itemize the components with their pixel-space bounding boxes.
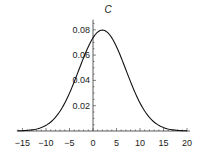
x-tick-label: 15 [158, 138, 168, 148]
x-tick-label: −5 [64, 138, 74, 148]
y-tick-label: 0.08 [72, 25, 90, 35]
x-tick-label: −15 [15, 138, 30, 148]
x-tick-label: 0 [90, 138, 95, 148]
x-tick-label: 20 [182, 138, 192, 148]
y-tick-label: 0.02 [72, 101, 90, 111]
chart: C −15−10−5051015200.020.040.060.08 [0, 0, 203, 153]
density-curve [18, 30, 187, 131]
y-tick-label: 0.06 [72, 50, 90, 60]
x-tick-label: 10 [135, 138, 145, 148]
x-tick-label: 5 [114, 138, 119, 148]
chart-title: C [104, 4, 112, 15]
x-tick-label: −10 [38, 138, 53, 148]
